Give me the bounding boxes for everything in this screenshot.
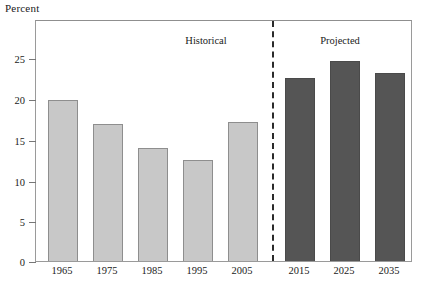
y-tick-10: 10 — [29, 182, 36, 183]
y-tick-25: 25 — [29, 59, 36, 60]
y-tick-label-15: 15 — [0, 137, 25, 148]
bar-1995 — [183, 160, 213, 261]
x-tick-label-2005: 2005 — [232, 266, 253, 277]
plot-inner: 25 20 15 10 5 0 Historical Projected — [36, 21, 411, 261]
y-tick-0: 0 — [29, 262, 36, 263]
bar-1975 — [93, 124, 123, 261]
y-tick-label-20: 20 — [0, 96, 25, 107]
bar-1965 — [48, 100, 78, 261]
bar-2005 — [228, 122, 258, 261]
y-tick-label-25: 25 — [0, 55, 25, 66]
y-tick-label-10: 10 — [0, 178, 25, 189]
x-tick-label-2025: 2025 — [334, 266, 355, 277]
y-axis-title: Percent — [5, 2, 39, 15]
y-tick-5: 5 — [29, 222, 36, 223]
annotation-historical: Historical — [185, 36, 226, 47]
y-tick-label-0: 0 — [0, 258, 25, 269]
bar-1985 — [138, 148, 168, 261]
bar-2035 — [375, 73, 405, 261]
x-tick-label-2015: 2015 — [289, 266, 310, 277]
plot-area: 25 20 15 10 5 0 Historical Projected — [35, 20, 412, 262]
x-tick-label-1975: 1975 — [97, 266, 118, 277]
bar-2015 — [285, 78, 315, 261]
x-tick-label-1965: 1965 — [52, 266, 73, 277]
bar-2025 — [330, 61, 360, 261]
annotation-projected: Projected — [320, 36, 360, 47]
y-tick-15: 15 — [29, 141, 36, 142]
y-tick-label-5: 5 — [0, 218, 25, 229]
bar-chart-figure: Percent 25 20 15 10 5 0 Historical — [0, 0, 424, 297]
x-tick-label-2035: 2035 — [379, 266, 400, 277]
y-tick-20: 20 — [29, 100, 36, 101]
x-tick-label-1995: 1995 — [187, 266, 208, 277]
x-tick-label-1985: 1985 — [142, 266, 163, 277]
historical-projected-divider — [272, 21, 274, 261]
